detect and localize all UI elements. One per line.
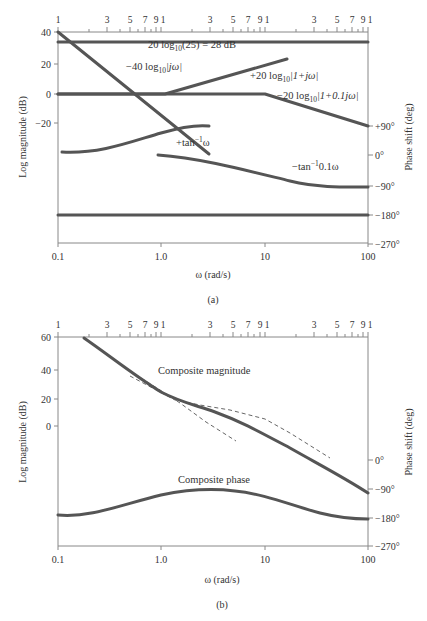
svg-text:7: 7 xyxy=(143,320,148,330)
svg-text:1: 1 xyxy=(265,15,270,25)
svg-text:5: 5 xyxy=(335,320,340,330)
y-tick-40: 40 xyxy=(41,27,51,38)
svg-text:1: 1 xyxy=(368,15,373,25)
ann-composite-magnitude: Composite magnitude xyxy=(158,365,251,376)
left-ticks-b xyxy=(54,337,58,426)
y-tick-20: 20 xyxy=(41,394,51,405)
panel-b: 1 3 5 7 9 1 3 5 7 9 1 3 5 7 9 1 60 40 20… xyxy=(17,320,415,611)
phase-tick-0: 0° xyxy=(375,455,384,466)
phase-tick-minus90: −90° xyxy=(375,484,395,495)
left-ticks-a xyxy=(54,32,58,123)
ann-pole-phase: −tan−10.1ω xyxy=(292,159,339,172)
svg-text:1: 1 xyxy=(161,15,166,25)
x-tick-1.0: 1.0 xyxy=(155,554,168,565)
panel-label-b: (b) xyxy=(216,599,228,611)
svg-text:3: 3 xyxy=(105,15,110,25)
svg-text:5: 5 xyxy=(231,320,236,330)
svg-text:1: 1 xyxy=(161,320,166,330)
y-tick-minus20: −20 xyxy=(35,118,51,129)
phase-tick-plus90: +90° xyxy=(375,121,395,132)
top-tick-labels-a: 1 3 5 7 9 1 3 5 7 9 1 3 5 7 9 1 xyxy=(56,15,373,25)
top-ticks-a xyxy=(58,27,368,32)
y-axis-right-label-a: Phase shift (deg) xyxy=(403,103,415,170)
svg-text:5: 5 xyxy=(128,320,133,330)
svg-text:3: 3 xyxy=(105,320,110,330)
bottom-ticks-a xyxy=(58,243,368,247)
svg-text:9: 9 xyxy=(154,320,159,330)
svg-text:9: 9 xyxy=(258,320,263,330)
svg-text:9: 9 xyxy=(361,15,366,25)
phase-tick-minus180: −180° xyxy=(375,513,400,524)
svg-text:7: 7 xyxy=(350,320,355,330)
svg-text:9: 9 xyxy=(154,15,159,25)
bottom-ticks-b xyxy=(58,546,368,550)
composite-phase-curve xyxy=(58,490,368,519)
ann-composite-phase: Composite phase xyxy=(178,474,250,485)
x-tick-10: 10 xyxy=(260,251,270,262)
top-tick-labels-b: 1 3 5 7 9 1 3 5 7 9 1 3 5 7 9 1 xyxy=(56,320,373,330)
top-ticks-b xyxy=(58,332,368,337)
x-axis-label-b: ω (rad/s) xyxy=(204,574,239,586)
x-tick-0.1: 0.1 xyxy=(52,554,65,565)
svg-text:1: 1 xyxy=(56,15,61,25)
y-tick-20: 20 xyxy=(41,59,51,70)
y-axis-label-a: Log magnitude (dB) xyxy=(17,96,29,178)
svg-text:5: 5 xyxy=(128,15,133,25)
svg-text:1: 1 xyxy=(265,320,270,330)
panel-label-a: (a) xyxy=(207,294,218,306)
svg-text:3: 3 xyxy=(312,15,317,25)
phase-tick-minus270: −270° xyxy=(375,541,400,552)
svg-text:7: 7 xyxy=(143,15,148,25)
y-axis-right-label-b: Phase shift (deg) xyxy=(403,408,415,475)
svg-text:7: 7 xyxy=(246,15,251,25)
svg-text:9: 9 xyxy=(361,320,366,330)
y-tick-60: 60 xyxy=(41,332,51,343)
x-axis-label-a: ω (rad/s) xyxy=(195,269,230,281)
svg-text:1: 1 xyxy=(368,320,373,330)
svg-text:1: 1 xyxy=(56,320,61,330)
svg-text:7: 7 xyxy=(350,15,355,25)
ann-gain: 20 log10(25) = 28 dB xyxy=(148,39,236,53)
svg-text:5: 5 xyxy=(335,15,340,25)
svg-text:3: 3 xyxy=(312,320,317,330)
phase-tick-minus90: −90° xyxy=(375,181,395,192)
panel-a: 1 3 5 7 9 1 3 5 7 9 1 3 5 7 9 1 40 20 0 … xyxy=(17,15,415,306)
bode-figure: 1 3 5 7 9 1 3 5 7 9 1 3 5 7 9 1 40 20 0 … xyxy=(0,0,427,621)
svg-text:3: 3 xyxy=(208,15,213,25)
ann-zero: +20 log10|1+jω| xyxy=(250,70,318,84)
svg-text:7: 7 xyxy=(246,320,251,330)
phase-tick-0: 0° xyxy=(375,150,384,161)
x-tick-100: 100 xyxy=(361,554,376,565)
ann-zero-phase: +tan−1ω xyxy=(176,135,210,148)
right-ticks-b xyxy=(368,460,373,546)
x-tick-10: 10 xyxy=(260,554,270,565)
y-tick-0: 0 xyxy=(46,89,51,100)
x-tick-100: 100 xyxy=(361,251,376,262)
y-axis-label-b: Log magnitude (dB) xyxy=(17,401,29,483)
svg-text:5: 5 xyxy=(231,15,236,25)
composite-magnitude-curve xyxy=(84,338,368,493)
phase-tick-minus180: −180° xyxy=(375,210,400,221)
x-tick-0.1: 0.1 xyxy=(52,251,65,262)
svg-text:9: 9 xyxy=(258,15,263,25)
y-tick-40: 40 xyxy=(41,365,51,376)
right-ticks-a xyxy=(368,126,373,244)
svg-text:3: 3 xyxy=(208,320,213,330)
y-tick-0: 0 xyxy=(46,421,51,432)
phase-tick-minus270: −270° xyxy=(375,239,400,250)
x-tick-1.0: 1.0 xyxy=(155,251,168,262)
ann-integrator: −40 log10|jω| xyxy=(126,61,182,75)
